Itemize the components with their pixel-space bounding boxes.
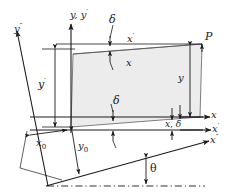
x-top-label: x — [126, 58, 132, 68]
delta-top-indicator — [110, 25, 113, 46]
y-prime-left-label: y′ — [38, 78, 46, 90]
x-prime-top-label: x′ — [127, 33, 134, 44]
point-p-label: P — [205, 31, 212, 42]
shaded-quadrilateral — [71, 44, 202, 127]
x0-label: x0 — [36, 138, 46, 151]
delta-top-label: δ — [109, 14, 116, 25]
y0-label: y0 — [78, 141, 88, 154]
axis-label-x: x — [211, 110, 217, 120]
theta-label: θ — [150, 163, 157, 174]
axis-label-y-doubleprime: y″ — [14, 23, 22, 34]
axis-label-y-yprime: y, y′ — [70, 9, 88, 20]
x-delta-label: x, δ — [165, 120, 181, 129]
coordinate-transformation-figure: y, y′ y″ x x′ x″ P δ δ x′ x y y′ x0 y0 x… — [0, 0, 233, 193]
delta-bottom-label: δ — [113, 95, 120, 106]
axis-y-doubleprime — [17, 31, 48, 186]
axis-label-x-doubleprime: x″ — [210, 134, 218, 145]
axis-x-doubleprime — [46, 141, 209, 186]
y-prime-dimension — [42, 49, 75, 127]
y-right-label: y — [178, 73, 184, 83]
